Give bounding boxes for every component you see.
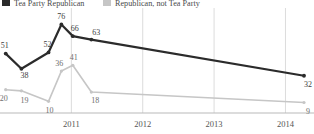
- data-point: [90, 90, 93, 93]
- data-point-label: 9: [306, 107, 310, 116]
- x-axis-tick-label: 2013: [206, 119, 223, 129]
- data-point-label: 36: [55, 59, 63, 68]
- x-axis-tick-label: 2014: [277, 119, 295, 129]
- data-point-label: 32: [304, 80, 312, 89]
- data-point: [302, 74, 306, 78]
- data-point: [59, 23, 63, 27]
- data-point-label: 52: [44, 40, 52, 49]
- data-point: [302, 101, 305, 104]
- data-point-label: 76: [57, 12, 65, 21]
- legend-swatch-icon: [2, 0, 10, 6]
- data-point-label: 20: [0, 94, 8, 103]
- legend-label: Republican, not Tea Party: [115, 0, 200, 8]
- data-point-label: 38: [20, 71, 28, 80]
- data-point: [4, 52, 8, 56]
- data-point: [20, 89, 23, 92]
- data-point-label: 51: [1, 41, 9, 50]
- data-point: [47, 100, 50, 103]
- chart-legend: Tea Party Republican Republican, not Tea…: [0, 0, 314, 9]
- data-point-label: 63: [92, 28, 100, 37]
- legend-item-tea-party-republican: Tea Party Republican: [2, 0, 84, 8]
- data-point-label: 10: [46, 106, 54, 115]
- chart-plot-area: 2019103641189513852766663322011201220132…: [0, 0, 314, 134]
- data-point-label: 41: [70, 53, 78, 62]
- series-line: [6, 65, 304, 102]
- legend-swatch-icon: [103, 0, 111, 6]
- legend-item-republican-not-tea-party: Republican, not Tea Party: [103, 0, 200, 8]
- data-point: [71, 64, 74, 67]
- series-line: [6, 24, 304, 75]
- data-point: [4, 88, 7, 91]
- x-axis-tick-label: 2012: [134, 119, 151, 129]
- x-axis-tick-label: 2011: [63, 119, 80, 129]
- data-point-label: 66: [71, 24, 79, 33]
- data-point: [71, 34, 75, 38]
- data-point: [47, 51, 51, 55]
- data-point-label: 19: [20, 96, 28, 105]
- data-point-label: 18: [91, 96, 99, 105]
- line-chart: Tea Party Republican Republican, not Tea…: [0, 0, 314, 134]
- data-point: [60, 69, 63, 72]
- legend-label: Tea Party Republican: [14, 0, 84, 8]
- data-point: [89, 38, 93, 42]
